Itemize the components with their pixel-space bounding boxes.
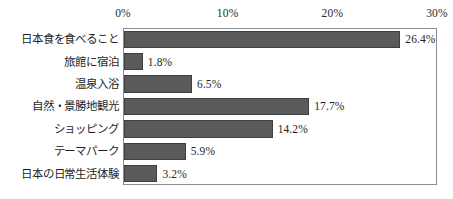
x-axis-tick-labels: 0%10%20%30%: [0, 6, 453, 24]
bar: [124, 98, 309, 115]
bar: [124, 165, 157, 182]
bar-value-label: 6.5%: [197, 77, 221, 91]
bar-value-label: 5.9%: [191, 144, 215, 158]
bar-row: 旅館に宿泊1.8%: [0, 50, 453, 72]
x-axis-tick-10: 10%: [217, 6, 239, 20]
bar-chart: 0%10%20%30% 日本食を食べること26.4%旅館に宿泊1.8%温泉入浴6…: [0, 0, 453, 199]
bar: [124, 31, 400, 48]
bar-row: 自然・景勝地観光17.7%: [0, 95, 453, 117]
x-axis-tick-0: 0%: [115, 6, 131, 20]
bar-value-label: 3.2%: [162, 167, 186, 181]
x-axis-tick-20: 20%: [321, 6, 343, 20]
bar-row: 温泉入浴6.5%: [0, 73, 453, 95]
bar: [124, 120, 273, 137]
category-label: ショッピング: [0, 122, 119, 136]
bar-value-label: 14.2%: [278, 122, 308, 136]
bar-value-label: 1.8%: [148, 55, 172, 69]
category-label: 旅館に宿泊: [0, 55, 119, 69]
category-label: 自然・景勝地観光: [0, 99, 119, 113]
category-label: 温泉入浴: [0, 77, 119, 91]
bar-value-label: 26.4%: [405, 32, 435, 46]
category-label: 日本食を食べること: [0, 32, 119, 46]
category-label: テーマパーク: [0, 144, 119, 158]
bar-value-label: 17.7%: [314, 99, 344, 113]
bar-row: 日本の日常生活体験3.2%: [0, 163, 453, 185]
category-label: 日本の日常生活体験: [0, 167, 119, 181]
bar-row: テーマパーク5.9%: [0, 140, 453, 162]
bar-rows: 日本食を食べること26.4%旅館に宿泊1.8%温泉入浴6.5%自然・景勝地観光1…: [0, 28, 453, 185]
x-axis-tick-30: 30%: [426, 6, 448, 20]
bar-row: ショッピング14.2%: [0, 118, 453, 140]
bar: [124, 75, 192, 92]
bar-row: 日本食を食べること26.4%: [0, 28, 453, 50]
bar: [124, 143, 186, 160]
bar: [124, 53, 143, 70]
